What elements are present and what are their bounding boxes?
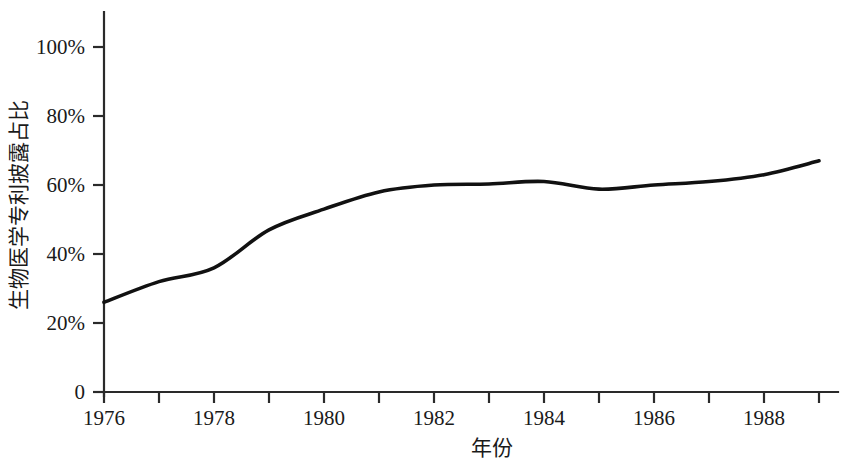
y-tick-label: 0: [75, 380, 86, 404]
y-tick-label: 40%: [47, 242, 86, 266]
line-chart: 020%40%60%80%100% 1976197819801982198419…: [0, 0, 847, 462]
y-axis-title: 生物医学专利披露占比: [7, 100, 31, 310]
y-tick-label: 20%: [47, 311, 86, 335]
y-tick-label: 60%: [47, 173, 86, 197]
x-tick-label: 1978: [193, 406, 235, 430]
x-axis-title: 年份: [471, 436, 513, 460]
x-tick-label: 1986: [633, 406, 675, 430]
x-tick-label: 1980: [303, 406, 345, 430]
y-tick-label: 80%: [47, 104, 86, 128]
y-tick-label: 100%: [36, 35, 85, 59]
x-tick-label: 1988: [743, 406, 785, 430]
x-tick-label: 1982: [413, 406, 455, 430]
x-tick-label: 1976: [83, 406, 125, 430]
x-tick-label: 1984: [523, 406, 566, 430]
chart-page: 020%40%60%80%100% 1976197819801982198419…: [0, 0, 847, 462]
